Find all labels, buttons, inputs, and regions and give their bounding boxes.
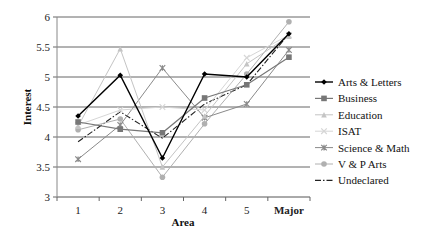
x-tick-label: 3 [160, 204, 166, 216]
y-axis-title: Interest [21, 88, 33, 125]
legend-item: Education [315, 109, 383, 121]
legend-label: Business [338, 92, 377, 104]
series-education [75, 33, 291, 169]
y-tick-label: 3 [45, 191, 51, 203]
y-tick-label: 3.5 [36, 161, 50, 173]
y-tick-label: 5.5 [36, 41, 50, 53]
legend-label: ISAT [338, 125, 362, 137]
legend-label: Arts & Letters [338, 76, 402, 88]
x-axis-title: Area [171, 216, 195, 228]
series-undeclared [78, 34, 289, 142]
y-tick-label: 4 [45, 131, 51, 143]
series-business [75, 54, 291, 135]
x-tick-label: Major [274, 204, 304, 216]
legend-label: Education [338, 109, 383, 121]
x-tick-label: 1 [75, 204, 81, 216]
y-tick-label: 4.5 [36, 101, 50, 113]
legend-item: V & P Arts [315, 158, 387, 170]
legend-label: Science & Math [338, 142, 410, 154]
legend-item: Undeclared [315, 174, 389, 186]
y-tick-label: 6 [45, 11, 51, 23]
line-chart: 33.544.555.56 12345Major Area Interest A… [0, 0, 423, 235]
legend: Arts & LettersBusinessEducationISATScien… [315, 76, 410, 186]
y-axis-ticks: 33.544.555.56 [36, 11, 50, 203]
legend-item: Business [315, 92, 377, 104]
legend-item: Science & Math [315, 142, 410, 154]
series-lines [75, 19, 291, 180]
x-tick-label: 2 [118, 204, 124, 216]
legend-item: Arts & Letters [315, 76, 402, 88]
x-tick-label: 5 [244, 204, 250, 216]
y-tick-label: 5 [45, 71, 51, 83]
legend-label: V & P Arts [338, 158, 387, 170]
x-tick-label: 4 [202, 204, 208, 216]
x-axis-ticks: 12345Major [57, 197, 310, 216]
legend-label: Undeclared [338, 174, 389, 186]
series-v-p-arts [75, 19, 291, 180]
legend-item: ISAT [315, 125, 362, 137]
